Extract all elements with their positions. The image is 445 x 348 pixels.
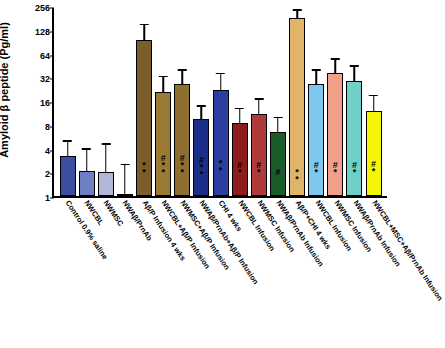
x-axis-label-slot: NWMSC Infusion <box>248 200 267 330</box>
y-axis-title: Amyloid β peptide (Pg/ml) <box>0 0 16 200</box>
bar-group: # * <box>326 8 345 196</box>
error-bar-cap <box>331 58 340 60</box>
error-bar-cap <box>350 65 359 67</box>
error-bar-cap <box>254 98 263 100</box>
bar-group: # * * <box>192 8 211 196</box>
error-bar-cap <box>216 73 225 75</box>
x-axis-label-slot: NWMSC <box>94 200 113 330</box>
error-bar <box>143 25 145 40</box>
bar: * * <box>213 90 229 196</box>
error-bar <box>182 71 184 86</box>
error-bar-cap <box>235 108 244 110</box>
bar-group: # * * <box>154 8 173 196</box>
significance-annotation: * * <box>295 169 299 183</box>
bar: # * * <box>193 119 209 196</box>
significance-annotation: # * <box>333 162 338 176</box>
x-axis-label-slot: NWCBL+Aβ/P Infusion <box>152 200 171 330</box>
error-bar <box>354 67 356 82</box>
error-bar-cap <box>273 117 282 119</box>
significance-annotation: # * <box>352 162 357 176</box>
bar <box>60 156 76 196</box>
significance-annotation: # * <box>371 161 376 175</box>
error-bar <box>124 165 126 195</box>
bar-group: # * <box>230 8 249 196</box>
x-axis-label-slot: CHI 4 wks <box>210 200 229 330</box>
bar-group: # * <box>345 8 364 196</box>
x-axis-label-slot: NWCBL Infusion <box>306 200 325 330</box>
bar-group: # * <box>364 8 383 196</box>
x-axis-label-slot: Aβ/P Infusion 4 wks <box>133 200 152 330</box>
x-axis-label-slot: NWMSC Infusion <box>325 200 344 330</box>
x-axis-label-slot: Control 0.9% saline <box>56 200 75 330</box>
y-axis-tick-mark <box>50 55 54 56</box>
error-bar-cap <box>140 24 149 26</box>
error-bar-cap <box>63 140 72 142</box>
significance-annotation: * * <box>142 162 146 176</box>
bar-series: * *# * *# * *# * ** *# *# *#* *# *# *# *… <box>54 8 387 196</box>
y-axis-tick-mark <box>50 8 54 9</box>
error-bar <box>335 60 337 75</box>
bar: # * <box>251 114 267 196</box>
significance-annotation: # * <box>314 162 319 176</box>
error-bar <box>296 11 298 19</box>
error-bar <box>220 74 222 91</box>
x-axis-labels: Control 0.9% salineNWCBLNWMSCNWAβ/PrnAbA… <box>52 200 387 330</box>
significance-annotation: # * <box>256 162 261 176</box>
x-axis-label-slot: NWAβ/PrnAb <box>114 200 133 330</box>
bar: # * <box>308 84 324 196</box>
error-bar <box>315 71 317 86</box>
significance-annotation: # * <box>237 162 242 176</box>
error-bar <box>239 109 241 124</box>
y-axis-tick-mark <box>50 31 54 32</box>
y-axis-tick-mark <box>50 103 54 104</box>
bar-group: # * <box>307 8 326 196</box>
error-bar <box>86 150 88 172</box>
bar-group: # * * <box>173 8 192 196</box>
error-bar-cap <box>101 143 110 145</box>
error-bar-cap <box>369 95 378 97</box>
bar-group: * * <box>135 8 154 196</box>
bar-group: * * <box>211 8 230 196</box>
error-bar-cap <box>82 148 91 150</box>
bar-group: # * <box>249 8 268 196</box>
significance-annotation: # * * <box>199 157 204 178</box>
bar-group <box>77 8 96 196</box>
x-axis-label-slot: NWAβ/PrnAb Infusion <box>345 200 364 330</box>
significance-annotation: # <box>275 169 280 176</box>
error-bar <box>201 107 203 120</box>
x-axis-label-slot: NWCBL Infusion <box>229 200 248 330</box>
bar: # * * <box>174 84 190 196</box>
y-axis-tick-mark <box>50 198 54 199</box>
bar: # * <box>346 81 362 196</box>
error-bar-cap <box>312 69 321 71</box>
y-axis-tick-mark <box>50 126 54 127</box>
bar-group <box>115 8 134 196</box>
plot-area: * *# * *# * *# * ** *# *# *#* *# *# *# *… <box>52 8 387 198</box>
bar: # * <box>232 123 248 196</box>
x-axis-label-slot: NWCBL+MSC+Aβ/PrnAb Infusion <box>364 200 383 330</box>
bar: * * <box>136 40 152 196</box>
bar: # * <box>366 111 382 196</box>
error-bar <box>67 142 69 157</box>
x-axis-label-slot: Aβ/P+CHI 4 wks <box>287 200 306 330</box>
bar-group <box>96 8 115 196</box>
error-bar-cap <box>197 105 206 107</box>
significance-annotation: # * * <box>161 155 166 176</box>
y-axis-tick-mark <box>50 79 54 80</box>
x-axis-label-slot: NWCBL <box>75 200 94 330</box>
bar: # * * <box>155 92 171 196</box>
error-bar <box>105 145 107 174</box>
bar <box>117 194 133 196</box>
y-axis-tick-mark <box>50 174 54 175</box>
bar-group: # <box>268 8 287 196</box>
x-axis-label-slot: NWAβ/PrnAb Infusion <box>268 200 287 330</box>
x-axis-label-slot: NWMSC+Aβ/P Infusion <box>171 200 190 330</box>
significance-annotation: # * * <box>180 155 185 176</box>
bar: # * <box>327 73 343 196</box>
bar-group <box>58 8 77 196</box>
bar: * * <box>289 18 305 196</box>
error-bar-cap <box>159 76 168 78</box>
significance-annotation: * * <box>219 160 223 174</box>
bar <box>98 172 114 196</box>
